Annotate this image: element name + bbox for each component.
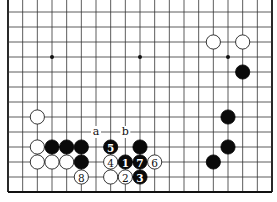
- black-stone-disc: [206, 155, 220, 169]
- white-stone: [30, 155, 44, 169]
- white-stone: [104, 170, 118, 184]
- white-stone: [30, 140, 44, 154]
- star-point: [226, 55, 230, 59]
- marker-label: b: [122, 125, 129, 138]
- black-stone-disc: [74, 140, 88, 154]
- black-stone-disc: [221, 110, 235, 124]
- black-stone: [206, 155, 220, 169]
- black-stone-3: 3: [133, 170, 147, 184]
- star-point: [50, 55, 54, 59]
- move-number: 6: [151, 157, 158, 169]
- white-stone-disc: [30, 155, 44, 169]
- move-number: 5: [107, 142, 114, 154]
- black-stone-disc: [221, 140, 235, 154]
- black-stone: [74, 140, 88, 154]
- white-stone: [60, 155, 74, 169]
- white-stone-4: 4: [104, 155, 118, 169]
- white-stone-2: 2: [118, 170, 132, 184]
- move-number: 1: [122, 157, 129, 169]
- white-stone: [45, 155, 59, 169]
- black-stone: [221, 140, 235, 154]
- go-board: ab 85417623: [0, 0, 277, 202]
- black-stone-disc: [60, 140, 74, 154]
- white-stone-disc: [45, 155, 59, 169]
- black-stone-disc: [45, 140, 59, 154]
- white-stone: [206, 35, 220, 49]
- white-stone: [236, 35, 250, 49]
- black-stone: [45, 140, 59, 154]
- white-stone-disc: [30, 140, 44, 154]
- move-number: 3: [136, 172, 143, 184]
- move-number: 7: [136, 157, 143, 169]
- black-stone-5: 5: [104, 140, 118, 154]
- black-stone: [60, 140, 74, 154]
- move-number: 8: [78, 172, 85, 184]
- black-stone-disc: [236, 65, 250, 79]
- black-stone-disc: [74, 155, 88, 169]
- white-stone-6: 6: [148, 155, 162, 169]
- marker-b: b: [120, 125, 130, 138]
- white-stone-disc: [104, 170, 118, 184]
- white-stone-disc: [206, 35, 220, 49]
- black-stone: [236, 65, 250, 79]
- black-stone: [74, 155, 88, 169]
- move-number: 2: [122, 172, 129, 184]
- white-stone-disc: [236, 35, 250, 49]
- marker-a: a: [91, 125, 101, 138]
- black-stone-7: 7: [133, 155, 147, 169]
- black-stone: [221, 110, 235, 124]
- white-stone: [30, 110, 44, 124]
- black-stone-1: 1: [118, 155, 132, 169]
- white-stone-disc: [60, 155, 74, 169]
- marker-label: a: [93, 125, 100, 138]
- white-stone-disc: [30, 110, 44, 124]
- star-point: [138, 55, 142, 59]
- white-stone-8: 8: [74, 170, 88, 184]
- black-stone-disc: [133, 140, 147, 154]
- move-number: 4: [107, 157, 114, 169]
- black-stone: [133, 140, 147, 154]
